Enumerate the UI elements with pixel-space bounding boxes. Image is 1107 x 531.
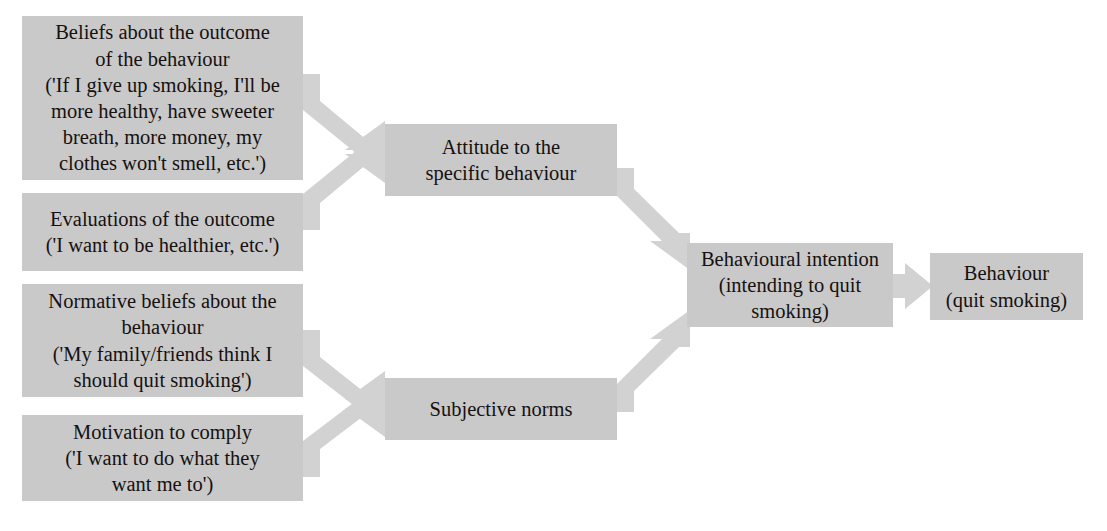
arrow-attitude-to-intention <box>617 168 690 270</box>
node-beliefs-about-outcome: Beliefs about the outcome of the behavio… <box>22 16 303 180</box>
node-evaluations-of-outcome: Evaluations of the outcome ('I want to b… <box>22 193 303 271</box>
node-normative-beliefs: Normative beliefs about the behaviour ('… <box>22 284 303 397</box>
arrow-intention-to-behaviour <box>893 263 933 309</box>
node-beliefs-label: Beliefs about the outcome of the behavio… <box>45 19 280 176</box>
node-subjective-label: Subjective norms <box>430 396 573 422</box>
node-behaviour-label: Behaviour (quit smoking) <box>946 260 1067 312</box>
arrow-subjective-to-intention <box>617 310 690 412</box>
node-motivation-label: Motivation to comply ('I want to do what… <box>65 419 259 498</box>
node-normative-label: Normative beliefs about the behaviour ('… <box>48 288 276 393</box>
node-evaluations-label: Evaluations of the outcome ('I want to b… <box>46 206 280 258</box>
node-subjective-norms: Subjective norms <box>385 378 617 440</box>
node-motivation-to-comply: Motivation to comply ('I want to do what… <box>22 415 303 501</box>
node-behaviour: Behaviour (quit smoking) <box>930 253 1083 320</box>
node-attitude-to-behaviour: Attitude to the specific behaviour <box>385 124 617 196</box>
node-attitude-label: Attitude to the specific behaviour <box>426 134 577 186</box>
node-behavioural-intention: Behavioural intention (intending to quit… <box>687 243 893 327</box>
node-intention-label: Behavioural intention (intending to quit… <box>701 246 879 325</box>
flow-diagram: Beliefs about the outcome of the behavio… <box>0 0 1107 531</box>
